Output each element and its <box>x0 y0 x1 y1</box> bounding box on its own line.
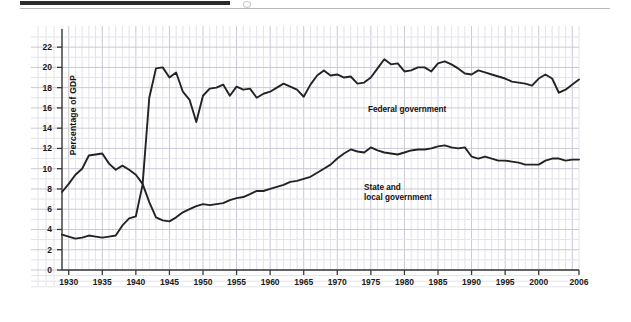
y-tick-label: 0 <box>30 266 52 275</box>
y-tick-label: 2 <box>30 246 52 255</box>
y-tick-label: 22 <box>30 43 52 52</box>
page-header-rule-dark <box>20 1 230 5</box>
page-header-rule-light <box>20 8 610 9</box>
y-axis-title: Percentage of GDP <box>68 55 78 175</box>
y-tick-label: 14 <box>30 124 52 133</box>
y-tick-label: 12 <box>30 144 52 153</box>
y-tick-label: 10 <box>30 165 52 174</box>
y-tick-label: 6 <box>30 205 52 214</box>
x-tick-label: 2000 <box>519 278 559 287</box>
y-tick-label: 4 <box>30 225 52 234</box>
series-label-state-and-local-government: State and local government <box>364 183 432 204</box>
y-tick-label: 8 <box>30 185 52 194</box>
y-tick-label: 20 <box>30 63 52 72</box>
series-label-federal-government: Federal government <box>368 105 446 115</box>
x-tick-label: 2006 <box>559 278 599 287</box>
chart-plot-lines <box>19 14 593 300</box>
figure-chart: Percentage of GDP 0246810121416182022 19… <box>19 14 593 300</box>
y-tick-label: 18 <box>30 84 52 93</box>
y-tick-label: 16 <box>30 104 52 113</box>
page-header-mark-icon <box>243 1 251 8</box>
